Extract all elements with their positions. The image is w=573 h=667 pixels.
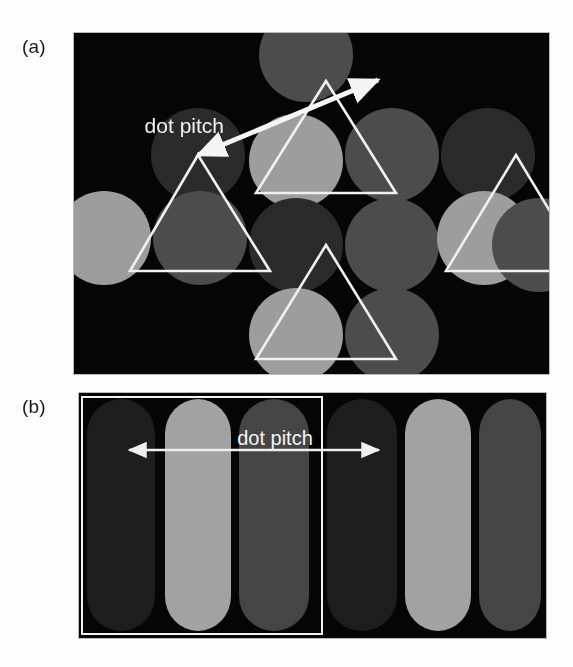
phosphor-stripe-light (165, 399, 231, 631)
figure-root: (a) dot pitch (b) (0, 0, 573, 667)
phosphor-stripe-medium (479, 399, 541, 631)
panel-a-canvas: dot pitch (74, 33, 549, 374)
phosphor-stripe-dark (327, 399, 397, 631)
panel-b-stripe-arrangement: dot pitch (78, 392, 547, 639)
phosphor-dot-dark (249, 198, 343, 292)
panel-b-canvas: dot pitch (79, 393, 546, 638)
panel-b-label: (b) (22, 396, 46, 418)
phosphor-stripe-dark (87, 399, 155, 631)
phosphor-stripe-light (405, 399, 471, 631)
panel-a-delta-dot-arrangement: dot pitch (73, 32, 550, 375)
dot-pitch-label-a: dot pitch (145, 114, 224, 137)
phosphor-dot-dark (441, 108, 535, 202)
panel-a-label: (a) (22, 36, 46, 58)
phosphor-dot-medium (345, 198, 439, 292)
dot-pitch-label-b: dot pitch (237, 427, 313, 449)
